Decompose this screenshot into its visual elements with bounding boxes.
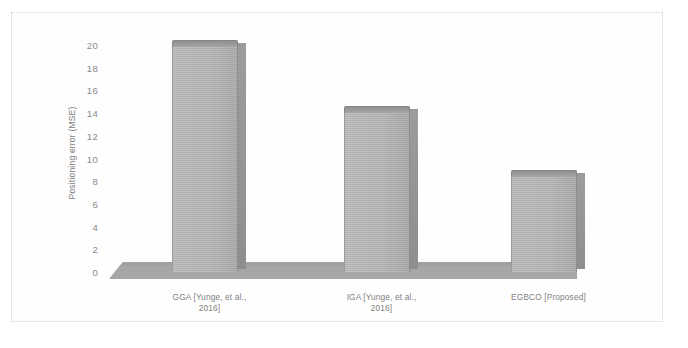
- x-axis-category-labels: GGA [Yunge, et al.,2016]IGA [Yunge, et a…: [100, 292, 600, 326]
- bar-1-front-face: [172, 47, 238, 272]
- bar-3: [511, 170, 577, 272]
- x-axis-label-2-line-1: IGA [Yunge, et al.,: [312, 292, 452, 303]
- x-axis-label-1-line-2: 2016]: [140, 303, 280, 314]
- x-axis-label-3-line-1: EGBCO [Proposed]: [479, 292, 619, 303]
- bar-2: [344, 106, 410, 272]
- bar-3-side-face: [576, 173, 585, 269]
- x-axis-label-1-line-1: GGA [Yunge, et al.,: [140, 292, 280, 303]
- bar-3-front-face: [511, 177, 577, 272]
- bar-1-top-face: [172, 40, 238, 47]
- figure-container: Positioning error (MSE) 2018161412108642…: [0, 0, 688, 348]
- bar-chart-plot-area: Positioning error (MSE) 2018161412108642…: [0, 0, 688, 348]
- x-axis-label-2: IGA [Yunge, et al.,2016]: [312, 292, 452, 314]
- bar-1-side-face: [237, 43, 246, 269]
- bar-2-side-face: [409, 109, 418, 269]
- x-axis-label-2-line-2: 2016]: [312, 303, 452, 314]
- bar-3-top-face: [511, 170, 577, 177]
- bar-2-top-face: [344, 106, 410, 113]
- bar-2-front-face: [344, 113, 410, 272]
- x-axis-label-3: EGBCO [Proposed]: [479, 292, 619, 303]
- bar-1: [172, 40, 238, 272]
- x-axis-label-1: GGA [Yunge, et al.,2016]: [140, 292, 280, 314]
